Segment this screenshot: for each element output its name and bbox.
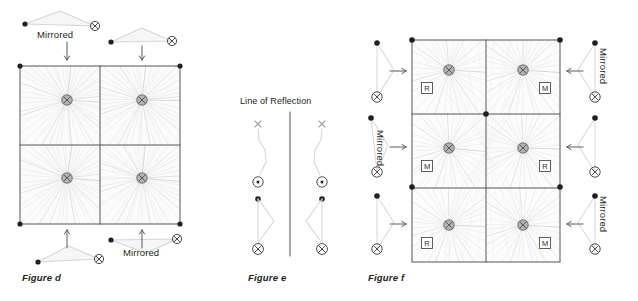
motif-right-row3-kite-outer bbox=[578, 196, 595, 249]
figure-d-motif-3-dot bbox=[108, 237, 113, 242]
figure-d-corner-dot-0 bbox=[17, 63, 22, 68]
figure-f-tag-m-1-text: M bbox=[542, 84, 548, 93]
motif-left-row1-kite-outer bbox=[377, 43, 394, 97]
caption-figure-e: Figure e bbox=[248, 272, 287, 283]
figure-d-motif-2-dot bbox=[35, 259, 40, 264]
motif-right-row1-kite-outer bbox=[578, 43, 595, 97]
reflection-shape-left-circled-dot-center bbox=[257, 181, 260, 184]
figure-f-tag-r-0-text: R bbox=[424, 84, 430, 93]
reflection-shape-right-kite-outer bbox=[306, 199, 322, 243]
reflection-shape-right-wave bbox=[314, 129, 322, 175]
mirrored-label-f-right-row3: Mirrored bbox=[598, 196, 609, 232]
figure-d-motif-2-path bbox=[38, 246, 99, 262]
reflection-shape-right-circled-dot-center bbox=[321, 181, 324, 184]
mirrored-label-d-top: Mirrored bbox=[37, 29, 73, 40]
reflection-shape-right-crossed-circle bbox=[317, 244, 328, 255]
motif-left-row2-dot bbox=[368, 115, 374, 121]
motif-left-row1-dot bbox=[374, 40, 380, 46]
figure-f-corner-dot-3 bbox=[409, 184, 415, 190]
figure-f-corner-dot-2 bbox=[483, 111, 489, 117]
figure-sheet: RMMRRM Mirrored Mirrored Figure d Line o… bbox=[0, 0, 638, 301]
figure-d-node-2 bbox=[62, 173, 72, 183]
reflection-shape-left-kite-outer bbox=[258, 199, 274, 243]
figure-f-tag-r-3-text: R bbox=[542, 162, 548, 171]
figure-f-node-4 bbox=[444, 220, 454, 230]
figure-d-motif-0-dot bbox=[22, 21, 27, 26]
figure-f-tag-r-4-text: R bbox=[424, 239, 430, 248]
figure-f-node-5 bbox=[518, 220, 528, 230]
figure-f-corner-dot-4 bbox=[557, 184, 563, 190]
figure-f-tag-m-5-text: M bbox=[542, 239, 548, 248]
motif-right-row2-kite-outer bbox=[578, 118, 595, 172]
motif-right-row1-dot bbox=[592, 40, 598, 46]
caption-figure-d: Figure d bbox=[22, 272, 61, 283]
figure-d-corner-dot-1 bbox=[177, 63, 182, 68]
figure-f-node-2 bbox=[444, 143, 454, 153]
caption-figure-f: Figure f bbox=[368, 272, 404, 283]
figure-d-corner-dot-3 bbox=[177, 221, 182, 226]
motif-left-row3-kite-outer bbox=[377, 196, 394, 249]
figure-d-node-3 bbox=[137, 173, 147, 183]
figure-f-node-1 bbox=[518, 65, 528, 75]
figure-d-corner-dot-2 bbox=[17, 221, 22, 226]
mirrored-label-d-bottom: Mirrored bbox=[123, 247, 159, 258]
figure-f-corner-dot-0 bbox=[409, 37, 415, 43]
figure-f-node-0 bbox=[444, 65, 454, 75]
figure-f-tag-m-2-text: M bbox=[424, 162, 430, 171]
motif-right-row2-dot bbox=[592, 115, 598, 121]
figure-d-motif-1-dot bbox=[108, 39, 113, 44]
reflection-shape-left-wave bbox=[258, 129, 266, 175]
mirrored-label-f-right-row1: Mirrored bbox=[598, 48, 609, 84]
motif-left-row3-dot bbox=[374, 193, 380, 199]
figure-d-node-1 bbox=[137, 95, 147, 105]
reflection-shape-left-crossed-circle bbox=[253, 244, 264, 255]
figure-d-motif-1-path bbox=[111, 28, 172, 42]
motif-right-row3-dot bbox=[592, 193, 598, 199]
mirrored-label-f-left-row2: Mirrored bbox=[375, 130, 386, 166]
figure-d-node-0 bbox=[62, 95, 72, 105]
figure-f-corner-dot-1 bbox=[557, 37, 563, 43]
diagram-canvas: RMMRRM bbox=[0, 0, 638, 301]
figure-d-motif-0-path bbox=[25, 11, 95, 26]
figure-f-node-3 bbox=[518, 143, 528, 153]
line-of-reflection-label: Line of Reflection bbox=[240, 96, 311, 106]
